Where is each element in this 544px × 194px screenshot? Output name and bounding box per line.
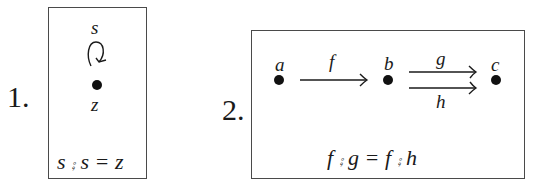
point-z xyxy=(92,80,102,90)
arrow-h xyxy=(409,82,476,94)
loop-arrow-s xyxy=(88,42,106,66)
point-c xyxy=(491,75,501,85)
arrow-g xyxy=(409,66,476,78)
point-a xyxy=(274,75,284,85)
arrow-f xyxy=(300,74,367,86)
point-b xyxy=(383,75,393,85)
diagram-graphics xyxy=(0,0,544,194)
